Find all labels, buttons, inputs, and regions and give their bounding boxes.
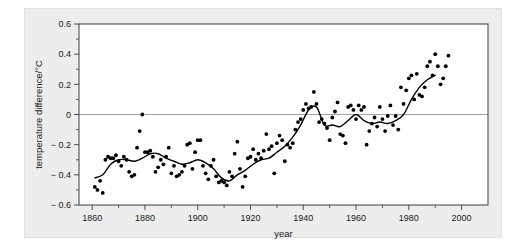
data-point [135, 146, 139, 150]
data-point [370, 122, 374, 126]
data-point [212, 158, 216, 162]
data-point [333, 110, 337, 114]
data-point [257, 152, 261, 156]
data-point [264, 132, 268, 136]
temperature-anomaly-chart: − 0.6− 0.4− 0.200.20.40.6186018801900192… [25, 9, 503, 239]
data-point [148, 149, 152, 153]
data-point [198, 138, 202, 142]
data-point [436, 64, 440, 68]
data-point [431, 73, 435, 77]
data-point [341, 134, 345, 138]
x-tick-label: 1920 [241, 213, 261, 223]
data-point [394, 114, 398, 118]
y-tick-label: 0.6 [58, 19, 71, 29]
data-point [412, 98, 416, 102]
x-tick-label: 1900 [188, 213, 208, 223]
data-point [267, 147, 271, 151]
data-point [275, 141, 279, 145]
x-tick-label: 1960 [346, 213, 366, 223]
data-point [254, 158, 258, 162]
x-tick-label: 1980 [399, 213, 419, 223]
data-point [183, 164, 187, 168]
data-point [140, 113, 144, 117]
data-point [439, 82, 443, 86]
data-point [344, 141, 348, 145]
data-point [444, 64, 448, 68]
data-point [251, 147, 255, 151]
data-point [209, 164, 213, 168]
y-tick-label: 0 [66, 110, 71, 120]
data-point [402, 102, 406, 106]
data-point [235, 140, 239, 144]
data-point [133, 173, 137, 177]
data-point [125, 158, 129, 162]
data-point [296, 120, 300, 124]
data-point [301, 108, 305, 112]
data-point [365, 143, 369, 147]
data-point [323, 122, 327, 126]
data-point [243, 174, 247, 178]
data-point [225, 183, 229, 187]
data-point [325, 126, 329, 130]
data-point [386, 114, 390, 118]
data-point [288, 146, 292, 150]
data-point [172, 164, 176, 168]
y-tick-label: − 0.2 [51, 140, 71, 150]
data-point [354, 117, 358, 121]
data-point [352, 108, 356, 112]
data-point [396, 128, 400, 132]
data-point [177, 173, 181, 177]
y-tick-label: − 0.6 [51, 200, 71, 210]
data-point [428, 60, 432, 64]
data-point [425, 64, 429, 68]
data-point [407, 76, 411, 80]
data-point [188, 141, 192, 145]
data-point [283, 159, 287, 163]
data-point [249, 155, 253, 159]
data-point [238, 167, 242, 171]
data-point [151, 155, 155, 159]
data-point [286, 143, 290, 147]
data-point [241, 185, 245, 189]
data-point [388, 104, 392, 108]
data-point [399, 85, 403, 89]
data-point [404, 88, 408, 92]
data-point [391, 123, 395, 127]
data-point [162, 162, 166, 166]
data-point [280, 138, 284, 142]
data-point [415, 72, 419, 76]
data-point [159, 158, 163, 162]
data-point [96, 188, 100, 192]
data-point [138, 129, 142, 133]
data-point [191, 167, 195, 171]
data-point [201, 164, 205, 168]
y-tick-label: 0.2 [58, 80, 71, 90]
data-point [383, 129, 387, 133]
data-point [119, 164, 123, 168]
data-point [359, 108, 363, 112]
x-tick-label: 1880 [135, 213, 155, 223]
data-point [111, 156, 115, 160]
data-point [362, 105, 366, 109]
y-tick-label: 0.4 [58, 49, 71, 59]
data-point [169, 171, 173, 175]
data-point [293, 128, 297, 132]
data-point [214, 174, 218, 178]
data-point [259, 156, 263, 160]
data-point [262, 149, 266, 153]
data-point [336, 101, 340, 105]
data-point [204, 171, 208, 175]
x-tick-label: 1860 [82, 213, 102, 223]
data-point [117, 159, 121, 163]
data-point [93, 185, 97, 189]
data-point [349, 104, 353, 108]
x-tick-label: 2000 [452, 213, 472, 223]
data-point [270, 144, 274, 148]
data-point [309, 105, 313, 109]
figure-panel: − 0.6− 0.4− 0.200.20.40.6186018801900192… [24, 8, 502, 238]
data-point [320, 117, 324, 121]
data-point [299, 117, 303, 121]
data-point [317, 120, 321, 124]
data-point [114, 153, 118, 157]
data-point [222, 180, 226, 184]
